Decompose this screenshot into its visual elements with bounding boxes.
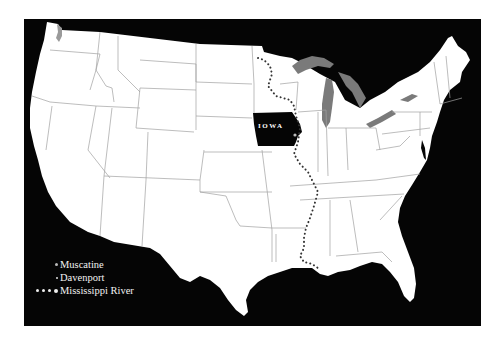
map-legend: Muscatine Davenport Mississippi River bbox=[28, 258, 134, 297]
muscatine-marker bbox=[293, 133, 296, 136]
dotted-line-icon bbox=[28, 289, 58, 293]
legend-label: Mississippi River bbox=[60, 284, 134, 297]
legend-item-river: Mississippi River bbox=[28, 284, 134, 297]
legend-label: Davenport bbox=[60, 271, 104, 284]
iowa-label: IOWA bbox=[258, 122, 283, 130]
legend-item-davenport: Davenport bbox=[28, 271, 134, 284]
legend-item-muscatine: Muscatine bbox=[28, 258, 134, 271]
davenport-dot-icon bbox=[28, 277, 58, 279]
legend-label: Muscatine bbox=[60, 258, 104, 271]
muscatine-dot-icon bbox=[28, 263, 58, 266]
